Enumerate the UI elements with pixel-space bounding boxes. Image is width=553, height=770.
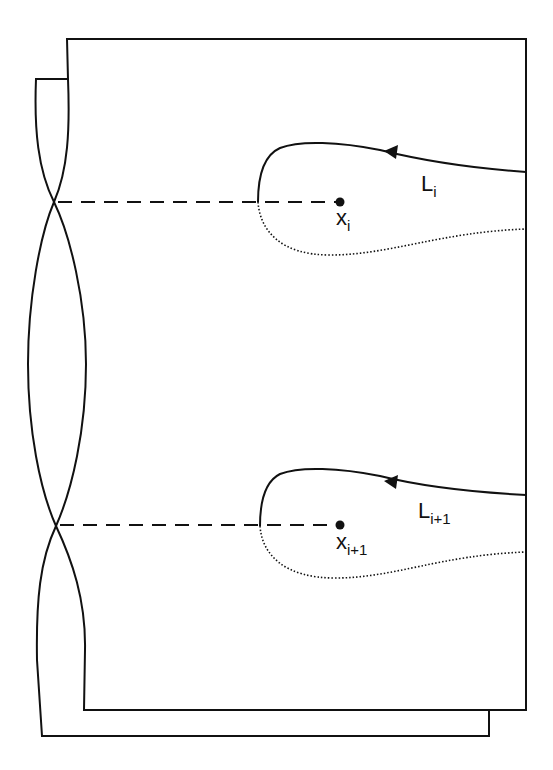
label-loop-bottom: Li+1: [418, 500, 451, 526]
label-loop-top-sub: i: [433, 183, 436, 200]
label-loop-top-base: L: [421, 171, 433, 196]
loop-top-dotted: [258, 202, 526, 255]
front-sheet-outline: [28, 39, 526, 710]
label-point-top-base: x: [336, 205, 347, 230]
label-point-top: xi: [336, 207, 350, 233]
label-point-bottom-base: x: [336, 529, 347, 554]
label-point-top-sub: i: [347, 217, 350, 234]
label-loop-bottom-base: L: [418, 498, 430, 523]
label-loop-bottom-sub: i+1: [430, 510, 450, 527]
label-point-bottom: xi+1: [336, 531, 367, 557]
diagram-canvas: [0, 0, 553, 770]
label-loop-top: Li: [421, 173, 437, 199]
arrow-top-icon: [384, 145, 398, 159]
label-point-bottom-sub: i+1: [347, 541, 367, 558]
loop-bottom-dotted: [260, 526, 526, 578]
